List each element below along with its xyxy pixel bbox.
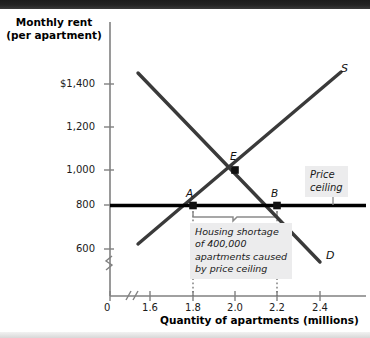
data-point-e[interactable] bbox=[231, 166, 239, 174]
y-tick-label-1400: $1,400 bbox=[35, 78, 95, 89]
shortage-bracket bbox=[193, 211, 277, 221]
point-a-label: A bbox=[186, 187, 193, 199]
data-point-a[interactable] bbox=[189, 202, 197, 210]
data-point-b[interactable] bbox=[273, 202, 281, 210]
y-tick-marks bbox=[104, 84, 114, 249]
supply-curve bbox=[138, 72, 341, 244]
shortage-line3: apartments caused bbox=[195, 251, 287, 263]
x-tick-label-2-0: 2.0 bbox=[215, 302, 255, 313]
y-tick-label-600: 600 bbox=[35, 243, 95, 254]
price-ceiling-line1: Price bbox=[310, 169, 343, 182]
x-tick-label-1-8: 1.8 bbox=[173, 302, 213, 313]
y-axis-break-mark bbox=[106, 256, 112, 270]
supply-curve-label: S bbox=[341, 62, 348, 75]
y-tick-label-1000: 1,000 bbox=[35, 164, 95, 175]
shortage-annotation: Housing shortage of 400,000 apartments c… bbox=[190, 223, 292, 279]
price-ceiling-annotation: Price ceiling bbox=[305, 166, 348, 197]
y-axis-title: Monthly rent (per apartment) bbox=[4, 16, 104, 41]
demand-curve-label: D bbox=[326, 249, 334, 262]
x-tick-label-1-6: 1.6 bbox=[130, 302, 170, 313]
shortage-line1: Housing shortage bbox=[195, 226, 287, 238]
price-ceiling-line2: ceiling bbox=[310, 182, 343, 195]
shortage-line2: of 400,000 bbox=[195, 238, 287, 250]
x-tick-label-2-4: 2.4 bbox=[300, 302, 340, 313]
x-axis-title: Quantity of apartments (millions) bbox=[160, 314, 359, 327]
scan-edge-bottom bbox=[0, 332, 370, 338]
y-tick-label-800: 800 bbox=[35, 199, 95, 210]
y-axis-title-line2: (per apartment) bbox=[4, 29, 104, 42]
point-e-label: E bbox=[230, 150, 237, 162]
y-axis-title-line1: Monthly rent bbox=[4, 16, 104, 29]
shortage-line4: by price ceiling bbox=[195, 263, 287, 275]
origin-label: 0 bbox=[104, 302, 110, 313]
point-b-label: B bbox=[271, 187, 278, 199]
y-tick-label-1200: 1,200 bbox=[35, 121, 95, 132]
x-tick-label-2-2: 2.2 bbox=[257, 302, 297, 313]
